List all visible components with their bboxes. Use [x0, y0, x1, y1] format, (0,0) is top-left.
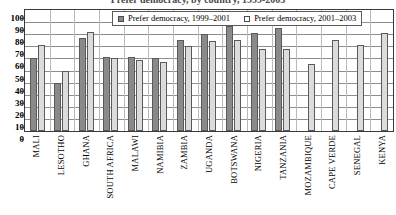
x-axis-category-label: UGANDA — [205, 135, 214, 173]
x-axis-category-label: BOTSWANA — [229, 135, 238, 184]
bar-group — [172, 10, 197, 131]
bar-group — [148, 10, 173, 131]
bar-series-1 — [79, 38, 86, 131]
bar-series-2 — [209, 41, 216, 131]
bar-series-2 — [185, 46, 192, 131]
bar-series-2 — [381, 33, 388, 131]
bar-group — [270, 10, 295, 131]
x-axis-category: UGANDA — [197, 133, 222, 215]
bar-group — [25, 10, 50, 131]
x-axis-category-label: SOUTH AFRICA — [106, 135, 115, 199]
x-axis-category-label: MOZAMBIQUE — [303, 135, 312, 196]
x-axis-category: SOUTH AFRICA — [98, 133, 123, 215]
bar-series-2 — [136, 60, 143, 131]
chart-title: Prefer democracy, by country, 1999-2003 — [0, 0, 396, 6]
series-2-swatch-icon — [244, 16, 250, 22]
x-axis-category-label: KENYA — [377, 135, 386, 165]
bar-group — [368, 10, 393, 131]
bar-series-1 — [54, 83, 61, 131]
x-axis-category: KENYA — [369, 133, 394, 215]
bar-series-2 — [234, 40, 241, 131]
x-axis-category-label: SENEGAL — [353, 135, 362, 175]
bar-series-2 — [357, 45, 364, 131]
x-axis-category: NIGERIA — [246, 133, 271, 215]
x-axis-category: MALI — [24, 133, 49, 215]
x-axis-category-label: CAPE VERDE — [328, 135, 337, 189]
bar-group — [99, 10, 124, 131]
legend-item-series-2: Prefer democracy, 2001–2003 — [244, 14, 356, 23]
x-axis-category: GHANA — [73, 133, 98, 215]
bar-group — [221, 10, 246, 131]
x-axis-category: MALAWI — [123, 133, 148, 215]
bar-group — [246, 10, 271, 131]
bar-series-2 — [62, 71, 69, 132]
bar-series-1 — [128, 57, 135, 131]
bar-series-2 — [283, 49, 290, 131]
bar-series-2 — [308, 64, 315, 131]
x-axis-category-label: MALI — [32, 135, 41, 158]
bar-series-1 — [177, 40, 184, 131]
bar-group — [319, 10, 344, 131]
bar-series-1 — [226, 26, 233, 131]
bar-group — [123, 10, 148, 131]
x-axis-category-label: ZAMBIA — [180, 135, 189, 170]
bar-series-2 — [87, 32, 94, 131]
bar-series-2 — [332, 40, 339, 131]
x-axis-category-label: NAMIBIA — [155, 135, 164, 174]
bar-series-2 — [160, 62, 167, 131]
x-axis-category: LESOTHO — [49, 133, 74, 215]
bar-series-1 — [275, 28, 282, 131]
x-axis-category-label: GHANA — [81, 135, 90, 167]
bar-series-1 — [251, 33, 258, 131]
x-axis-category: NAMIBIA — [147, 133, 172, 215]
bar-group — [295, 10, 320, 131]
x-axis-category: SENEGAL — [345, 133, 370, 215]
legend-label-series-2: Prefer democracy, 2001–2003 — [254, 14, 356, 23]
bar-group — [74, 10, 99, 131]
bar-series-1 — [201, 34, 208, 131]
x-axis-category: BOTSWANA — [221, 133, 246, 215]
bar-series-2 — [38, 45, 45, 131]
series-1-swatch-icon — [118, 16, 124, 22]
x-axis-category-label: NIGERIA — [254, 135, 263, 171]
bar-series-1 — [30, 58, 37, 131]
bar-group — [344, 10, 369, 131]
legend-item-series-1: Prefer democracy, 1999–2001 — [118, 14, 230, 23]
x-axis-labels: MALILESOTHOGHANASOUTH AFRICAMALAWINAMIBI… — [24, 133, 394, 215]
y-axis: 1009080706050403020100 — [0, 9, 24, 132]
bar-series-2 — [111, 58, 118, 131]
plot-area — [24, 9, 394, 132]
bar-series-2 — [259, 49, 266, 131]
chart-legend: Prefer democracy, 1999–2001 Prefer democ… — [112, 11, 362, 26]
chart-title-text: Prefer democracy, by country, 1999-2003 — [0, 0, 396, 5]
chart-figure: Prefer democracy, by country, 1999-2003 … — [0, 0, 396, 215]
x-axis-category: MOZAMBIQUE — [295, 133, 320, 215]
x-axis-category-label: LESOTHO — [57, 135, 66, 175]
x-axis-category-label: MALAWI — [131, 135, 140, 171]
bar-groups — [25, 10, 393, 131]
bar-series-1 — [152, 58, 159, 131]
x-axis-category: ZAMBIA — [172, 133, 197, 215]
legend-label-series-1: Prefer democracy, 1999–2001 — [128, 14, 230, 23]
bar-group — [197, 10, 222, 131]
x-axis-category: CAPE VERDE — [320, 133, 345, 215]
x-axis-category-label: TANZANIA — [279, 135, 288, 180]
bar-group — [50, 10, 75, 131]
bar-series-1 — [103, 57, 110, 131]
x-axis-category: TANZANIA — [271, 133, 296, 215]
